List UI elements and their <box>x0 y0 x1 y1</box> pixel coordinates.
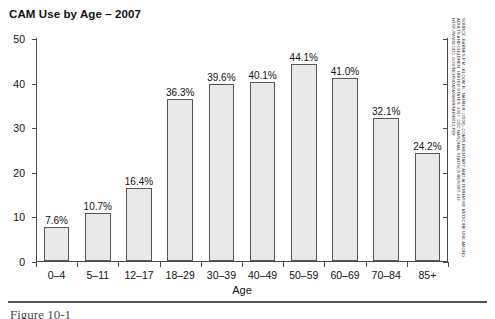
bar: 44.1% <box>291 64 317 261</box>
x-axis-tick <box>242 262 243 267</box>
x-axis-tick <box>160 262 161 267</box>
bar: 32.1% <box>373 118 399 261</box>
bar: 7.6% <box>44 227 70 261</box>
y-axis-tick: 40 <box>32 84 36 85</box>
x-axis-category-label: 50–59 <box>289 269 318 281</box>
x-axis-category-label: 30–39 <box>207 269 236 281</box>
bar-value-label: 39.6% <box>207 72 235 83</box>
bottom-rule-divider <box>8 301 487 303</box>
y-axis-tick-label: 20 <box>13 167 25 179</box>
x-axis-tick <box>36 262 37 267</box>
plot-area: 01020304050 7.6%10.7%16.4%36.3%39.6%40.1… <box>36 38 448 262</box>
bar-value-label: 10.7% <box>84 201 112 212</box>
x-axis-category-label: 18–29 <box>166 269 195 281</box>
bar-value-label: 32.1% <box>372 106 400 117</box>
x-axis-category-label: 60–69 <box>330 269 359 281</box>
bar: 16.4% <box>126 188 152 261</box>
y-axis-tick-right <box>443 173 448 174</box>
figure-container: CAM Use by Age – 2007 01020304050 7.6%10… <box>0 0 495 319</box>
y-axis-tick: 50 <box>32 39 36 40</box>
x-axis-category-label: 12–17 <box>124 269 153 281</box>
x-axis-tick <box>77 262 78 267</box>
bar: 10.7% <box>85 213 111 261</box>
x-axis-category-label: 85+ <box>418 269 436 281</box>
y-axis-tick: 20 <box>32 173 36 174</box>
x-axis-title: Age <box>36 284 448 296</box>
bar-value-label: 7.6% <box>45 215 68 226</box>
x-axis-tick <box>201 262 202 267</box>
x-axis-tick <box>448 262 449 267</box>
bar: 36.3% <box>167 99 193 261</box>
bar-value-label: 16.4% <box>125 176 153 187</box>
y-axis-tick-label: 10 <box>13 211 25 223</box>
y-axis-tick-right <box>443 84 448 85</box>
x-axis-tick <box>407 262 408 267</box>
y-axis-tick-label: 30 <box>13 122 25 134</box>
bar-value-label: 24.2% <box>413 141 441 152</box>
chart-title: CAM Use by Age – 2007 <box>9 8 141 20</box>
x-axis-category-label: 40–49 <box>248 269 277 281</box>
x-axis-category-label: 70–84 <box>372 269 401 281</box>
y-axis-tick: 10 <box>32 217 36 218</box>
bar-value-label: 44.1% <box>290 52 318 63</box>
bar: 40.1% <box>250 82 276 261</box>
x-axis-category-label: 5–11 <box>87 269 110 281</box>
y-axis-tick-label: 0 <box>19 256 25 268</box>
y-axis-tick-right <box>443 128 448 129</box>
x-axis-tick <box>118 262 119 267</box>
figure-caption: Figure 10-1 <box>10 307 71 319</box>
x-axis-tick <box>366 262 367 267</box>
bar: 41.0% <box>332 78 358 261</box>
bar-value-label: 36.3% <box>166 87 194 98</box>
bar: 39.6% <box>209 84 235 261</box>
bar-value-label: 40.1% <box>248 70 276 81</box>
y-axis-tick-right <box>443 217 448 218</box>
x-axis-tick <box>324 262 325 267</box>
bar-value-label: 41.0% <box>331 66 359 77</box>
y-axis-tick: 30 <box>32 128 36 129</box>
x-axis-tick <box>283 262 284 267</box>
bar: 24.2% <box>415 153 441 261</box>
y-axis-left <box>36 38 37 262</box>
y-axis-tick-right <box>443 39 448 40</box>
y-axis-right <box>447 38 448 262</box>
source-note: SOURCE: BARNES P.M., BLOOM B., NAHIN R. … <box>450 18 466 270</box>
y-axis-tick-label: 40 <box>13 78 25 90</box>
y-axis-tick-label: 50 <box>13 33 25 45</box>
x-axis-category-label: 0–4 <box>48 269 66 281</box>
